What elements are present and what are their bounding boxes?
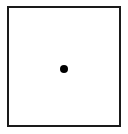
center-dot xyxy=(60,65,68,73)
